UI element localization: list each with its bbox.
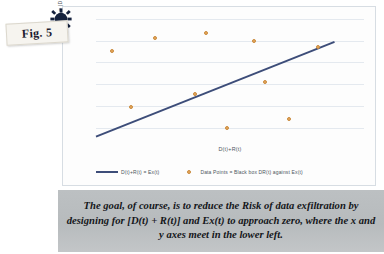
data-point [110,49,114,53]
legend-line-label: D(t)+R(t) = Ex(t) [121,169,159,175]
legend-entry-points: Data Points = Black box DR(t) against Ex… [187,169,302,175]
legend-points-label: Data Points = Black box DR(t) against Ex… [200,169,302,175]
trend-line [96,15,364,143]
data-point [287,117,291,121]
data-point [263,80,267,84]
caption-text: The goal, of course, is to reduce the Ri… [58,199,384,243]
data-point [153,36,157,40]
chart-legend: D(t)+R(t) = Ex(t) Data Points = Black bo… [96,169,368,175]
figure-tag-group: Fig. 5 [6,8,86,50]
data-point [252,39,256,43]
legend-entry-line: D(t)+R(t) = Ex(t) [96,169,159,175]
figure-number-tag: Fig. 5 [5,20,68,45]
caption-bar: The goal, of course, is to reduce the Ri… [58,190,384,252]
trend-line-stroke [96,42,335,137]
data-point [225,126,229,130]
plot-area [96,15,364,143]
data-point [129,105,133,109]
legend-line-swatch-icon [96,171,118,173]
data-point [204,31,208,35]
figure-number-label: Fig. 5 [21,25,52,42]
legend-dot-swatch-icon [187,170,191,174]
figure-card: Ex(t) = |DB| / BW D(t)+R(t) D(t)+R(t) = … [62,6,376,186]
x-axis-title: D(t)+R(t) [96,146,364,152]
